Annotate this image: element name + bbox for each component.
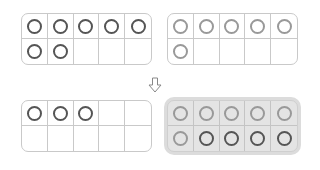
frame-cell — [22, 126, 48, 151]
frame-cell — [99, 14, 125, 39]
frame-cell — [22, 39, 48, 64]
frame-cell — [194, 14, 220, 39]
counter-circle-icon — [250, 131, 265, 146]
frame-cell — [194, 126, 220, 151]
counter-circle-icon — [199, 106, 214, 121]
counter-circle-icon — [224, 106, 239, 121]
frame-cell — [271, 14, 297, 39]
counter-circle-icon — [224, 131, 239, 146]
frame-cell — [245, 101, 271, 126]
frame-cell — [48, 101, 74, 126]
counter-circle-icon — [173, 131, 188, 146]
frame-cell — [99, 126, 125, 151]
counter-circle-icon — [224, 19, 239, 34]
counter-circle-icon — [277, 19, 292, 34]
frame-cell — [125, 126, 151, 151]
frame-cell — [125, 14, 151, 39]
frame-cell — [168, 14, 194, 39]
counter-circle-icon — [53, 106, 68, 121]
frame-cell — [74, 101, 100, 126]
frame-cell — [220, 101, 246, 126]
frame-cell — [220, 14, 246, 39]
frame-cell — [271, 126, 297, 151]
frame-cell — [125, 39, 151, 64]
counter-circle-icon — [199, 19, 214, 34]
counter-circle-icon — [53, 19, 68, 34]
frame-cell — [245, 126, 271, 151]
counter-circle-icon — [173, 19, 188, 34]
counter-circle-icon — [277, 131, 292, 146]
counter-circle-icon — [199, 131, 214, 146]
counter-circle-icon — [250, 19, 265, 34]
frame-cell — [245, 39, 271, 64]
counter-circle-icon — [173, 106, 188, 121]
frame-cell — [74, 14, 100, 39]
counter-circle-icon — [131, 19, 146, 34]
counter-circle-icon — [27, 19, 42, 34]
frame-cell — [194, 39, 220, 64]
down-arrow-icon — [148, 77, 162, 93]
counter-circle-icon — [53, 44, 68, 59]
ten-frame-top-right — [167, 13, 298, 65]
ten-frame-top-left — [21, 13, 152, 65]
counter-circle-icon — [27, 106, 42, 121]
frame-cell — [22, 14, 48, 39]
frame-cell — [99, 39, 125, 64]
counter-circle-icon — [27, 44, 42, 59]
counter-circle-icon — [277, 106, 292, 121]
counter-circle-icon — [78, 106, 93, 121]
frame-cell — [99, 101, 125, 126]
frame-cell — [74, 39, 100, 64]
frame-cell — [168, 39, 194, 64]
counter-circle-icon — [104, 19, 119, 34]
frame-cell — [22, 101, 48, 126]
frame-cell — [48, 14, 74, 39]
frame-cell — [168, 101, 194, 126]
frame-cell — [245, 14, 271, 39]
counter-circle-icon — [173, 44, 188, 59]
counter-circle-icon — [250, 106, 265, 121]
frame-cell — [271, 101, 297, 126]
frame-cell — [48, 39, 74, 64]
counter-circle-icon — [78, 19, 93, 34]
frame-cell — [194, 101, 220, 126]
frame-cell — [271, 39, 297, 64]
frame-cell — [168, 126, 194, 151]
frame-cell — [220, 126, 246, 151]
frame-cell — [125, 101, 151, 126]
frame-cell — [48, 126, 74, 151]
ten-frame-bottom-left — [21, 100, 152, 152]
frame-cell — [74, 126, 100, 151]
ten-frame-bottom-right-result — [167, 100, 298, 152]
frame-cell — [220, 39, 246, 64]
